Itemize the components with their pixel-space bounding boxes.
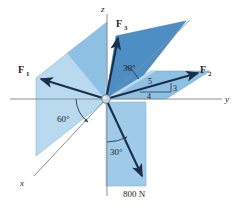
force-label-f2-sub: 2	[208, 70, 212, 78]
force-diagram-figure: z y x F 1 F 2 F 3 30° 60° 30° 5 3 4 80	[0, 0, 236, 210]
origin-ball	[102, 95, 111, 104]
slope-label-vertical: 3	[173, 84, 177, 93]
force-label-f1: F 1	[18, 64, 30, 78]
angle-label-30-top: 30°	[123, 63, 136, 73]
slope-label-hypotenuse: 5	[148, 77, 152, 86]
force-label-f2-main: F	[200, 64, 206, 75]
force-label-f1-main: F	[18, 64, 24, 75]
magnitude-label-800n: 800 N	[123, 189, 146, 199]
origin-ball-highlight	[103, 96, 106, 99]
slope-label-horizontal: 4	[147, 92, 151, 101]
angle-label-60: 60°	[57, 114, 70, 124]
force-diagram-svg: z y x F 1 F 2 F 3 30° 60° 30° 5 3 4 80	[0, 0, 236, 210]
force-label-f3-main: F	[116, 18, 122, 29]
angle-label-30-bottom: 30°	[110, 147, 123, 157]
z-axis-label: z	[100, 4, 105, 14]
y-axis-label: y	[224, 94, 229, 104]
force-label-f3: F 3	[116, 18, 128, 32]
x-axis-label: x	[19, 178, 24, 188]
force-label-f1-sub: 1	[26, 70, 30, 78]
force-label-f3-sub: 3	[124, 24, 128, 32]
